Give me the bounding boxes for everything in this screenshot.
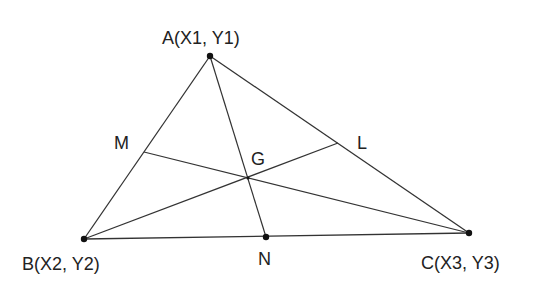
midpoint-n-dot: [263, 234, 269, 240]
centroid-g-dot: [246, 176, 249, 179]
side-ab: [84, 56, 210, 239]
vertex-a-label: A(X1, Y1): [162, 29, 240, 47]
vertex-c-label: C(X3, Y3): [421, 254, 500, 272]
vertex-a-dot: [207, 53, 213, 59]
centroid-g-label: G: [251, 150, 265, 168]
median-a-n: [210, 56, 266, 237]
vertex-b-dot: [81, 236, 87, 242]
midpoint-n-label: N: [258, 250, 271, 268]
vertex-c-dot: [466, 230, 472, 236]
side-bc: [84, 233, 469, 239]
vertex-b-label: B(X2, Y2): [22, 255, 100, 273]
median-c-m: [144, 152, 469, 233]
midpoint-m-label: M: [114, 134, 129, 152]
midpoint-l-label: L: [357, 134, 367, 152]
side-ac: [210, 56, 469, 233]
